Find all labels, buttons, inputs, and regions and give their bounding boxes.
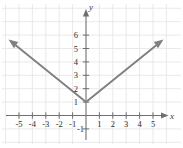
x-tick-label: 2 — [111, 119, 115, 129]
y-tick-label: 1 — [74, 97, 78, 107]
x-tick-label: -2 — [56, 119, 63, 129]
y-tick-label-negative-one: -1 — [77, 124, 84, 134]
x-tick-label: 1 — [97, 119, 101, 129]
x-tick-label: 3 — [124, 119, 128, 129]
x-tick-label: -1 — [69, 119, 76, 129]
x-tick-labels: -5 -4 -3 -2 -1 1 2 3 4 5 — [15, 119, 155, 129]
x-tick-label: -4 — [29, 119, 37, 129]
x-tick-label: -3 — [42, 119, 49, 129]
x-tick-label: 5 — [151, 119, 155, 129]
x-axis-arrowhead — [161, 112, 169, 118]
y-axis-label: y — [88, 2, 93, 12]
y-tick-label: 3 — [74, 70, 78, 80]
x-tick-label: -5 — [15, 119, 22, 129]
y-tick-label: 5 — [74, 44, 78, 54]
x-tick-label: 4 — [137, 119, 142, 129]
absolute-value-graph-figure: x y -5 -4 -3 -2 -1 1 2 3 4 5 6 5 4 3 2 1… — [0, 0, 183, 148]
y-tick-label: 6 — [74, 30, 78, 40]
x-axis-label: x — [169, 111, 174, 121]
coordinate-plane-svg: x y -5 -4 -3 -2 -1 1 2 3 4 5 6 5 4 3 2 1… — [0, 0, 183, 148]
y-tick-label: 2 — [74, 84, 78, 94]
